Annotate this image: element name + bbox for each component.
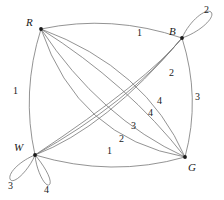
edge-label-R-G-2: 2 xyxy=(119,134,124,144)
vertex-label-W: W xyxy=(14,142,23,153)
edge-label-R-W: 1 xyxy=(13,86,18,96)
edge-B-G xyxy=(182,38,192,157)
edge-label-W-B-3: 3 xyxy=(131,121,136,131)
loop-W-4 xyxy=(35,155,50,185)
edge-R-G-2 xyxy=(41,29,185,157)
edge-R-B xyxy=(41,23,182,38)
loop-W-3 xyxy=(10,155,35,181)
vertex-dot-R[interactable] xyxy=(39,27,43,31)
edge-label-W-G: 1 xyxy=(107,146,112,156)
vertex-label-R: R xyxy=(26,17,33,28)
loop-label-W-3: 3 xyxy=(8,181,13,191)
vertex-dot-B[interactable] xyxy=(180,36,184,40)
loop-label-W-4: 4 xyxy=(44,185,49,195)
edge-label-R-B: 1 xyxy=(137,28,142,38)
loop-B-2 xyxy=(182,11,212,38)
edge-W-G xyxy=(35,155,185,167)
edge-label-B-G: 3 xyxy=(195,92,200,102)
vertex-label-G: G xyxy=(188,162,196,173)
vertex-label-B: B xyxy=(169,26,176,37)
edge-R-G-4b xyxy=(41,29,185,157)
vertex-dot-W[interactable] xyxy=(33,153,37,157)
edge-R-G-4a xyxy=(41,29,185,157)
edge-label-W-B-2: 2 xyxy=(169,68,174,78)
edge-R-G-outer xyxy=(41,29,185,157)
vertex-dot-G[interactable] xyxy=(183,155,187,159)
loop-label-B: 2 xyxy=(204,5,209,15)
edge-label-R-G-4b: 4 xyxy=(148,108,153,118)
edge-label-R-G-4a: 4 xyxy=(157,96,162,106)
graph-figure: R B W G 1 1 3 1 2 4 4 3 2 2 3 4 xyxy=(0,0,224,200)
edge-R-W xyxy=(29,29,41,155)
